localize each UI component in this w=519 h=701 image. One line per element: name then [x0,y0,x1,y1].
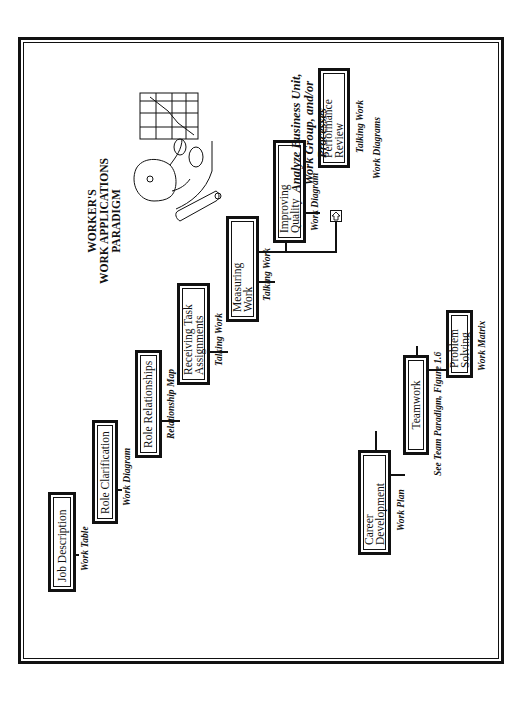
tool-label: Talking Work [214,313,224,366]
step-label: Receiving Task Assignments [182,288,205,380]
diagram-title: WORKER'S WORK APPLICATIONS PARADIGM [86,101,122,341]
branch-tool-label: Work Diagrams [372,117,382,179]
step-label: Problem Solving [451,315,468,373]
branch-label: Analyze Business Unit, Work Group, and/o… [290,33,329,233]
step-label: Measuring Work [231,221,254,317]
tool-label: See Team Paradigm, Figure 1.6 [433,352,443,476]
step-role-clarification[interactable]: Role Clarification [92,420,118,524]
step-job-description[interactable]: Job Description [48,492,76,592]
worker-chart-illustration-icon [120,81,230,231]
tool-label: Work Matrix [477,321,487,371]
tool-label: Work Plan [396,489,406,531]
tool-label: Talking Work [262,248,272,301]
diagram-canvas: WORKER'S WORK APPLICATIONS PARADIGM [0,0,519,701]
step-role-relationships[interactable]: Role Relationships [135,350,162,458]
step-label: Role Relationships [140,355,157,453]
tool-label: Relationship Map [166,369,176,439]
branch-connector-end [335,222,337,253]
step-receiving-task-assignments[interactable]: Receiving Task Assignments [177,283,210,385]
step-label: Job Description [53,497,71,587]
step-measuring-work[interactable]: Measuring Work [226,216,259,322]
arrow-right-icon[interactable] [330,210,342,222]
step-label: Teamwork [408,360,424,450]
tool-label: Work Diagram [122,448,132,506]
step-label: Career Development [363,455,386,550]
tool-label: Work Table [80,526,90,571]
step-problem-solving[interactable]: Problem Solving [446,310,473,378]
step-career-development[interactable]: Career Development [358,450,391,555]
step-label: Role Clarification [97,425,113,519]
tool-label: Talking Work [355,100,365,153]
step-teamwork[interactable]: Teamwork [403,355,429,455]
